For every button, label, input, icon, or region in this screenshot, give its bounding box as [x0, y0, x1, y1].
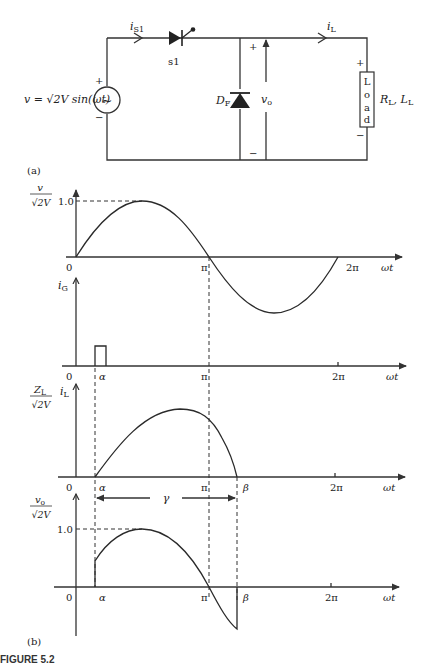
load-current-label: iL: [327, 20, 337, 34]
svg-text:2π: 2π: [332, 371, 345, 382]
diode-icon: [229, 89, 251, 109]
ig-label: iG: [58, 279, 68, 293]
svg-text:ωt: ωt: [383, 482, 396, 493]
figure-caption: FIGURE 5.2: [0, 654, 55, 665]
svg-text:β: β: [242, 592, 249, 603]
svg-text:d: d: [364, 114, 371, 125]
thyristor-icon: [169, 27, 195, 46]
source-plus: +: [95, 75, 103, 86]
svg-text:√2V: √2V: [32, 197, 52, 208]
svg-text:√2V: √2V: [32, 399, 52, 410]
plot-gate-current: iG 0 α π 2π ωt: [58, 278, 406, 382]
svg-text:β: β: [242, 482, 249, 493]
plot-source-voltage: v √2V 1.0 0 π 2π ωt: [30, 182, 402, 313]
svg-text:π: π: [201, 482, 208, 493]
plot-output-voltage: vo √2V 1.0 0 α π β 2π ωt: [30, 494, 399, 636]
vo-minus: −: [249, 148, 257, 159]
load-plus: +: [356, 57, 364, 68]
svg-text:2π: 2π: [346, 262, 359, 273]
zl-numerator: ZL: [33, 384, 46, 397]
svg-text:1.0: 1.0: [58, 196, 74, 207]
load-resistor-icon: L o a d: [360, 72, 374, 127]
svg-text:ωt: ωt: [386, 371, 399, 382]
circuit-diagram: ~ L o a d v = √2V sin(ωt) + − iS1 s1 DF …: [24, 20, 414, 160]
svg-text:2π: 2π: [325, 592, 338, 603]
svg-text:L: L: [364, 76, 371, 87]
svg-text:0: 0: [66, 262, 72, 273]
thyristor-label: s1: [168, 56, 180, 67]
svg-text:α: α: [99, 482, 106, 493]
svg-text:π: π: [201, 262, 208, 273]
gate-pulse: [95, 346, 106, 366]
bottom-wire: [107, 114, 367, 160]
svg-text:a: a: [364, 102, 370, 113]
figure-canvas: ~ L o a d v = √2V sin(ωt) + − iS1 s1 DF …: [0, 0, 422, 667]
svg-text:π: π: [201, 371, 208, 382]
svg-text:ωt: ωt: [383, 592, 396, 603]
svg-text:γ: γ: [163, 492, 170, 505]
source-label: v = √2V sin(ωt): [24, 93, 110, 106]
vo-label: vo: [261, 93, 272, 107]
diode-label: DF: [215, 94, 231, 108]
output-voltage-curve: [95, 529, 237, 629]
svg-text:α: α: [99, 592, 106, 603]
svg-text:o: o: [364, 89, 370, 100]
load-params-label: RL, LL: [379, 93, 414, 107]
thyristor-current-label: iS1: [130, 20, 144, 34]
svg-text:0: 0: [66, 592, 72, 603]
svg-text:α: α: [99, 371, 106, 382]
plot-load-current: ZL √2V iL 0 α π β 2π ωt γ: [30, 384, 405, 505]
svg-text:v: v: [37, 182, 43, 193]
il-label: iL: [60, 385, 70, 399]
vo-numerator: vo: [35, 494, 46, 507]
svg-text:1.0: 1.0: [57, 524, 73, 535]
svg-text:π: π: [201, 592, 208, 603]
svg-text:ωt: ωt: [381, 262, 394, 273]
svg-text:√2V: √2V: [32, 509, 52, 520]
panel-a-label: (a): [27, 165, 41, 176]
svg-text:2π: 2π: [330, 482, 343, 493]
vo-plus: +: [249, 41, 257, 52]
svg-text:0: 0: [66, 482, 72, 493]
top-wire: [107, 38, 367, 72]
svg-text:0: 0: [66, 371, 72, 382]
load-minus: −: [356, 130, 364, 141]
source-minus: −: [95, 112, 103, 123]
panel-b-label: (b): [27, 636, 41, 647]
load-current-curve: [95, 409, 237, 477]
